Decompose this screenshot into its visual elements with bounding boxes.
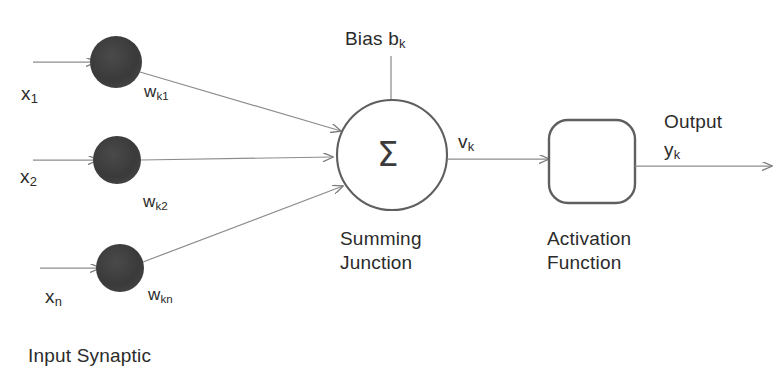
output-value-label-sub: k	[674, 147, 680, 162]
weight-connections	[140, 72, 343, 262]
activation-function-caption-line1: Activation	[547, 227, 631, 251]
summing-output-label-text: v	[458, 131, 468, 152]
weight-label-2-text: w	[143, 192, 155, 211]
weight-label-1: wk1	[144, 82, 169, 102]
bias-label-text: Bias b	[345, 28, 399, 49]
synapse-node-2	[93, 136, 141, 184]
weight-label-1-text: w	[144, 82, 156, 101]
input-label-3-text: x	[45, 286, 55, 307]
weight-line-1	[140, 72, 341, 131]
input-label-2-text: x	[20, 166, 30, 187]
sigma-symbol: Σ	[377, 137, 398, 171]
neuron-diagram: Σ x1 x2 xn wk1 wk2 wkn Bias bk vk Summin…	[0, 0, 781, 379]
weight-label-2: wk2	[143, 192, 168, 212]
synapse-node-3	[96, 244, 144, 292]
input-label-2-sub: 2	[30, 174, 37, 189]
synapse-node-1	[90, 36, 142, 88]
weight-line-3	[143, 186, 343, 262]
weight-label-3-text: w	[148, 285, 160, 304]
weight-label-1-sub: k1	[156, 90, 168, 102]
diagram-canvas	[0, 0, 781, 379]
input-label-1-sub: 1	[31, 91, 38, 106]
weight-label-3-sub: kn	[160, 293, 172, 305]
bias-label: Bias bk	[345, 28, 405, 50]
input-label-2: x2	[20, 166, 37, 188]
activation-function-caption-line2: Function	[547, 251, 631, 275]
input-label-3-sub: n	[55, 294, 62, 309]
summing-output-label-sub: k	[468, 139, 474, 154]
output-value-label-text: y	[664, 139, 674, 160]
summing-junction-caption: Summing Junction	[340, 227, 422, 276]
summing-junction-caption-line1: Summing	[340, 227, 422, 251]
activation-function-box	[549, 120, 635, 203]
weight-line-2	[141, 157, 333, 160]
synaptic-nodes	[90, 36, 144, 292]
output-value-label: yk	[664, 139, 680, 161]
activation-function-caption: Activation Function	[547, 227, 631, 276]
input-label-1-text: x	[21, 83, 31, 104]
input-arrows	[33, 62, 100, 268]
summing-junction-caption-line2: Junction	[340, 251, 422, 275]
bias-label-sub: k	[399, 36, 405, 51]
summing-output-label: vk	[458, 131, 474, 153]
input-label-3: xn	[45, 286, 62, 308]
weight-label-3: wkn	[148, 285, 173, 305]
input-label-1: x1	[21, 83, 38, 105]
output-label: Output	[664, 111, 722, 133]
weight-label-2-sub: k2	[155, 200, 167, 212]
input-synaptic-caption: Input Synaptic	[28, 345, 151, 367]
